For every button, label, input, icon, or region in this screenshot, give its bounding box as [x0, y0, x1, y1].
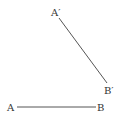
- label-a: A: [6, 102, 15, 113]
- label-b-prime: B′: [104, 85, 114, 96]
- geometry-diagram: A′ B′ A B: [0, 0, 123, 116]
- label-b: B: [97, 102, 104, 113]
- segment-a-prime-b-prime: [59, 18, 107, 83]
- label-a-prime: A′: [50, 7, 61, 18]
